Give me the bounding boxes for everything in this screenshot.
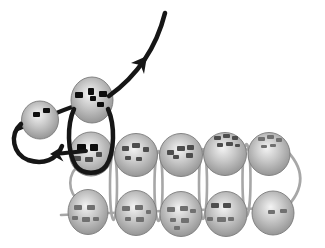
- bead-row2-col4-speckle-5: [228, 217, 234, 221]
- bead-row2-col2-speckle-5: [146, 210, 151, 214]
- bead-row1-col5-speckle-3: [276, 138, 282, 142]
- bead-row1-col3: [160, 134, 203, 177]
- bead-row1-col4-speckle-4: [217, 143, 223, 147]
- bead-row2-col4-speckle-1: [211, 203, 219, 208]
- bead-row2-col4: [205, 192, 247, 237]
- bead-row2-col5-speckle-1: [268, 210, 275, 214]
- bead-top-speckle-3: [90, 96, 96, 101]
- bead-row1-col2-speckle-4: [125, 156, 131, 160]
- bead-row2-col1-speckle-2: [87, 205, 95, 210]
- bead-row2-col2-speckle-3: [125, 217, 131, 221]
- bead-row2-col4-speckle-3: [207, 217, 213, 221]
- bead-row1-col5-speckle-5: [270, 144, 276, 147]
- bead-top-speckle-2: [88, 88, 94, 95]
- bead-row1-col5-speckle-1: [258, 137, 265, 141]
- bead-row1-col4-speckle-3: [232, 136, 238, 140]
- bead-top-speckle-1: [75, 92, 83, 98]
- beading-diagram-canvas: [0, 0, 325, 248]
- bead-row2-col3-speckle-1: [167, 207, 175, 212]
- bead-top-speckle-5: [97, 102, 104, 107]
- bead-row1-col2: [115, 134, 158, 177]
- bead-row1-col1-speckle-5: [96, 152, 102, 157]
- bead-row2-col1-speckle-4: [82, 217, 90, 222]
- bead-row2-col2-speckle-1: [122, 206, 130, 211]
- bead-row1-col3-speckle-3: [187, 145, 194, 150]
- bead-row2-col1: [68, 190, 108, 235]
- bead-row1-col4: [204, 133, 247, 176]
- bead-top-speckle-4: [99, 91, 107, 97]
- bead-row1-col3-speckle-4: [173, 155, 179, 159]
- bead-row1-col1-speckle-4: [85, 157, 93, 162]
- bead-row1-col4-speckle-2: [223, 134, 230, 138]
- bead-row2-col3: [160, 192, 202, 237]
- bead-row1-col5-speckle-4: [261, 145, 267, 148]
- bead-row2-col5-speckle-2: [280, 209, 287, 213]
- bead-row1-col2-speckle-3: [143, 147, 149, 152]
- bead-row1-col2-speckle-1: [122, 146, 129, 151]
- bead-row2-col1-speckle-3: [72, 216, 78, 220]
- bead-row1-col3-speckle-1: [167, 150, 174, 155]
- bead-row2-col1-speckle-5: [93, 217, 99, 221]
- bead-new-speckle-2: [43, 108, 50, 113]
- bead-row1-col1-speckle-2: [90, 144, 98, 151]
- bead-row1-col4-speckle-1: [214, 136, 221, 140]
- bead-row2-col2-speckle-4: [136, 217, 144, 222]
- bead-row1-col2-speckle-2: [132, 143, 140, 148]
- bead-row1-col4-speckle-5: [226, 142, 233, 146]
- bead-row2-col4-speckle-2: [223, 203, 231, 208]
- bead-row2-col3-speckle-4: [170, 218, 176, 222]
- bead-row1-col3-speckle-5: [186, 153, 193, 158]
- bead-row2-col3-speckle-6: [174, 226, 180, 230]
- bead-new: [22, 101, 59, 139]
- bead-new-speckle-1: [33, 112, 40, 117]
- bead-diagram-svg: [0, 0, 325, 248]
- bead-row1-col5-speckle-2: [267, 135, 274, 139]
- bead-row2-col4-speckle-4: [217, 217, 226, 222]
- bead-row2-col3-speckle-3: [190, 209, 196, 213]
- bead-row2-col1-speckle-1: [74, 205, 82, 210]
- thread-left-arrow-shaft: [59, 151, 86, 154]
- bead-row2-col2-speckle-2: [135, 205, 143, 210]
- bead-row1-col2-speckle-5: [136, 157, 142, 161]
- bead-row1-col4-speckle-6: [235, 144, 240, 147]
- bead-row2-col3-speckle-2: [180, 206, 188, 211]
- bead-row2-col3-speckle-5: [181, 218, 189, 223]
- bead-row1-col3-speckle-2: [177, 146, 185, 151]
